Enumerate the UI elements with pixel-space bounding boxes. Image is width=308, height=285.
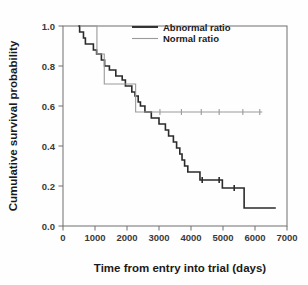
y-tick-label: 0.6 [42,101,55,112]
x-tick-label: 3000 [148,232,169,243]
x-axis-title: Time from entry into trial (days) [94,262,266,274]
kaplan-meier-figure: 01000200030004000500060007000 0.00.20.40… [0,0,308,285]
y-tick-label: 0.8 [42,61,55,72]
x-tick-label: 5000 [212,232,233,243]
x-tick-label: 6000 [244,232,265,243]
legend-label-abnormal: Abnormal ratio [163,22,231,33]
y-tick-label: 1.0 [42,21,55,32]
y-tick-label: 0.2 [42,181,55,192]
y-tick-label: 0.0 [42,221,55,232]
survival-plot: 01000200030004000500060007000 0.00.20.40… [0,0,308,285]
x-tick-label: 0 [60,232,65,243]
x-tick-label: 1000 [84,232,105,243]
y-axis-title: Cumulative survival probability [7,40,19,211]
x-tick-label: 4000 [180,232,201,243]
y-tick-label: 0.4 [42,141,56,152]
x-tick-label: 2000 [116,232,137,243]
x-tick-label: 7000 [276,232,297,243]
legend-label-normal: Normal ratio [163,33,219,44]
